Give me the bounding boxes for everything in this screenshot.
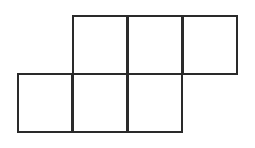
bottom-row-cell-2 — [72, 73, 128, 133]
top-row-cell-2 — [127, 15, 183, 75]
bottom-row-cell-3 — [127, 73, 183, 133]
top-row-cell-3 — [182, 15, 238, 75]
bottom-row-cell-1 — [17, 73, 73, 133]
top-row-cell-1 — [72, 15, 128, 75]
